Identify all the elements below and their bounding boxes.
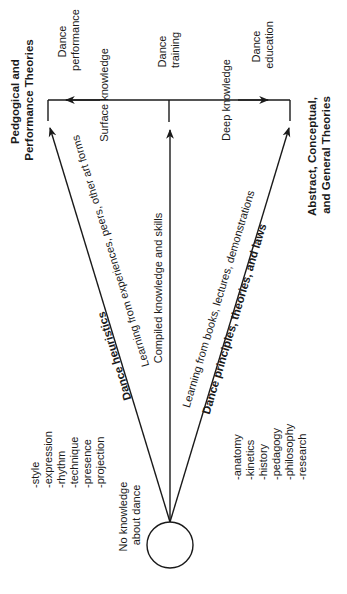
list-item: -projection	[94, 437, 106, 488]
list-item: -philosophy	[283, 423, 295, 480]
compiled-knowledge-label: Compiled knowledge and skills	[152, 212, 164, 363]
origin-label-line-2: about dance	[130, 485, 142, 546]
right-theory-title-line-2: and General Theories	[320, 96, 332, 214]
outcome-performance-line-2: performance	[69, 9, 81, 71]
principles-list: -anatomy -kinetics -history -pedagogy -p…	[231, 423, 308, 480]
dance-knowledge-diagram: Pedgogical and Performance Theories Danc…	[0, 0, 347, 594]
origin-circle	[147, 522, 193, 568]
deep-knowledge-label: Deep knowledge	[220, 59, 232, 141]
origin-label: No knowledge about dance	[117, 479, 142, 552]
list-item: -pedagogy	[270, 428, 282, 480]
outcome-dance-training: Dance training	[156, 32, 181, 68]
right-theory-title: Abstract, Conceptual, and General Theori…	[306, 94, 332, 216]
list-item: -expression	[42, 431, 54, 488]
left-theory-title: Pedgogical and Performance Theories	[9, 39, 35, 160]
left-theory-title-line-2: Performance Theories	[23, 39, 35, 160]
left-theory-title-line-1: Pedgogical and	[9, 59, 21, 144]
outcome-training-line-1: Dance	[156, 36, 168, 68]
list-item: -rhythm	[55, 451, 67, 488]
outcome-training-line-2: training	[169, 32, 181, 68]
list-item: -kinetics	[244, 439, 256, 480]
list-item: -style	[29, 462, 41, 488]
surface-knowledge-label: Surface knowledge	[98, 48, 110, 142]
list-item: -history	[257, 443, 269, 480]
list-item: -anatomy	[231, 434, 243, 480]
heuristics-list: -style -expression -rhythm -technique -p…	[29, 431, 106, 488]
origin-label-line-1: No knowledge	[117, 482, 129, 552]
outcome-dance-performance: Dance performance	[56, 9, 81, 71]
list-item: -presence	[81, 439, 93, 488]
outcome-performance-line-1: Dance	[56, 26, 68, 58]
outcome-education-line-1: Dance	[250, 31, 262, 63]
right-theory-title-line-1: Abstract, Conceptual,	[306, 97, 318, 216]
outcome-dance-education: Dance education	[250, 21, 275, 69]
outcome-education-line-2: education	[263, 21, 275, 69]
list-item: -technique	[68, 437, 80, 488]
list-item: -research	[296, 434, 308, 480]
